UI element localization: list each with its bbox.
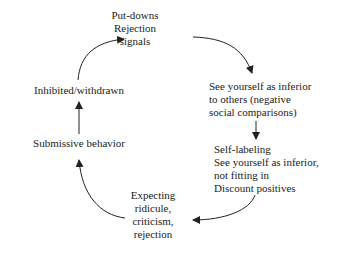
node-inferior-line-3: social comparisons) xyxy=(209,106,311,119)
node-submissive-line-1: Submissive behavior xyxy=(24,137,134,150)
node-putdowns-line-1: Put-downs xyxy=(100,9,170,22)
node-putdowns: Put-downs Rejection signals xyxy=(100,9,170,48)
node-putdowns-line-2: Rejection xyxy=(100,22,170,35)
node-selflabel-line-2: See yourself as inferior, xyxy=(214,156,319,169)
node-putdowns-line-3: signals xyxy=(100,35,170,48)
node-expecting-line-1: Expecting xyxy=(118,189,188,202)
node-inhibited-line-1: Inhibited/withdrawn xyxy=(24,84,134,97)
node-inferior-line-2: to others (negative xyxy=(209,93,311,106)
node-expecting-line-3: criticism, xyxy=(118,215,188,228)
node-expecting: Expecting ridicule, criticism, rejection xyxy=(118,189,188,241)
node-inferior: See yourself as inferior to others (nega… xyxy=(209,80,311,119)
arrow-selflabel-to-expecting xyxy=(193,195,255,220)
node-expecting-line-2: ridicule, xyxy=(118,202,188,215)
node-selflabel-line-3: not fitting in xyxy=(214,169,319,182)
node-selflabel: Self-labeling See yourself as inferior, … xyxy=(214,143,319,195)
arrow-putdowns-to-inferior xyxy=(193,37,252,73)
node-expecting-line-4: rejection xyxy=(118,228,188,241)
node-selflabel-line-4: Discount positives xyxy=(214,182,319,195)
node-inferior-line-1: See yourself as inferior xyxy=(209,80,311,93)
node-submissive: Submissive behavior xyxy=(24,137,134,150)
node-inhibited: Inhibited/withdrawn xyxy=(24,84,134,97)
node-selflabel-line-1: Self-labeling xyxy=(214,143,319,156)
